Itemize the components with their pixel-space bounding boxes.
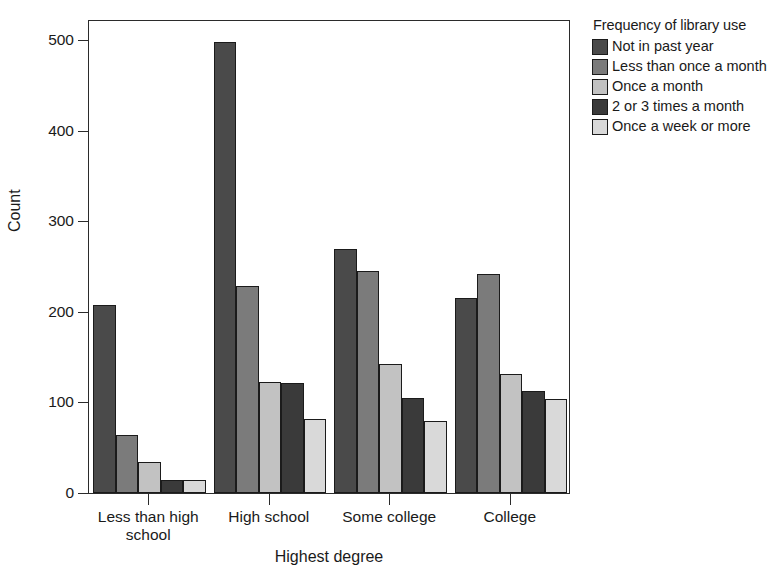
y-axis-tick — [78, 40, 88, 41]
x-axis-tick — [148, 494, 149, 505]
y-axis-tick — [78, 221, 88, 222]
y-axis-tick — [78, 131, 88, 132]
bar-group — [455, 21, 568, 493]
legend-swatch-icon — [592, 119, 608, 135]
bar — [116, 435, 139, 493]
legend-items: Not in past yearLess than once a monthOn… — [592, 38, 767, 135]
x-axis-tick-label-line: High school — [228, 508, 309, 525]
bar — [304, 419, 327, 493]
legend-item-label: Less than once a month — [612, 58, 767, 74]
x-axis-tick-label-line: Some college — [342, 508, 436, 525]
bar — [214, 42, 237, 493]
legend: Frequency of library use Not in past yea… — [592, 17, 767, 138]
legend-swatch-icon — [592, 59, 608, 75]
x-axis-tick — [510, 494, 511, 505]
legend-swatch-icon — [592, 39, 608, 55]
y-axis-tick-label: 300 — [48, 213, 74, 229]
y-axis-tick-label: 200 — [48, 304, 74, 320]
bar — [545, 399, 568, 493]
bars-layer — [89, 21, 569, 493]
bar-group — [334, 21, 447, 493]
bar — [357, 271, 380, 493]
bar — [93, 305, 116, 493]
bar-group — [214, 21, 327, 493]
y-axis-tick — [78, 312, 88, 313]
x-axis-tick-label-line: College — [483, 508, 536, 525]
bar — [138, 462, 161, 493]
bar — [259, 382, 282, 493]
legend-item[interactable]: Once a week or more — [592, 118, 767, 135]
bar-chart: Count 0100200300400500 Less than highsch… — [0, 0, 769, 576]
y-axis-tick-label: 0 — [65, 485, 74, 501]
bar — [236, 286, 259, 493]
bar — [334, 249, 357, 493]
bar — [161, 480, 184, 493]
bar — [424, 421, 447, 493]
x-axis-tick-label-line: school — [126, 526, 171, 543]
bar — [402, 398, 425, 493]
x-axis-tick-label: College — [440, 508, 580, 526]
legend-item-label: 2 or 3 times a month — [612, 98, 744, 114]
x-axis-tick-label: High school — [199, 508, 339, 526]
legend-swatch-icon — [592, 99, 608, 115]
x-axis-tick-label-line: Less than high — [98, 508, 199, 525]
legend-item-label: Once a month — [612, 78, 703, 94]
legend-swatch-icon — [592, 79, 608, 95]
legend-item[interactable]: 2 or 3 times a month — [592, 98, 767, 115]
y-axis-tick-label: 400 — [48, 123, 74, 139]
y-axis-title: Count — [6, 189, 24, 232]
y-axis-tick — [78, 402, 88, 403]
bar — [500, 374, 523, 493]
y-axis-tick-label: 500 — [48, 32, 74, 48]
legend-item[interactable]: Once a month — [592, 78, 767, 95]
legend-title: Frequency of library use — [593, 17, 767, 33]
x-axis-tick-label: Some college — [319, 508, 459, 526]
y-axis-tick-label: 100 — [48, 394, 74, 410]
legend-item[interactable]: Less than once a month — [592, 58, 767, 75]
plot-area — [88, 20, 570, 494]
bar — [281, 383, 304, 493]
x-axis-tick-label: Less than highschool — [78, 508, 218, 544]
legend-item[interactable]: Not in past year — [592, 38, 767, 55]
x-axis-tick — [389, 494, 390, 505]
x-axis-tick — [269, 494, 270, 505]
bar — [183, 480, 206, 493]
x-axis-title: Highest degree — [0, 548, 658, 566]
y-axis-tick — [78, 493, 88, 494]
bar — [477, 274, 500, 493]
bar-group — [93, 21, 206, 493]
legend-item-label: Not in past year — [612, 38, 714, 54]
bar — [379, 364, 402, 493]
legend-item-label: Once a week or more — [612, 118, 751, 134]
bar — [522, 391, 545, 493]
bar — [455, 298, 478, 493]
